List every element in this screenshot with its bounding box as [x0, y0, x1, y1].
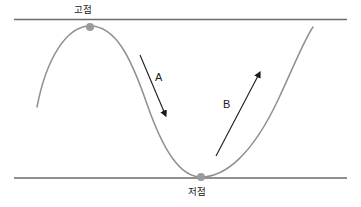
high-point-label: 고점	[74, 5, 92, 15]
diagram-canvas	[0, 0, 361, 207]
price-cycle-diagram: 고점 저점 A B	[0, 0, 361, 207]
arrow-down-right-icon	[140, 55, 165, 114]
low-point-label: 저점	[188, 187, 206, 197]
low-point-marker-icon	[197, 173, 205, 181]
arrow-a-label: A	[155, 72, 162, 83]
price-wave-curve	[37, 26, 313, 177]
arrow-b-label: B	[223, 99, 230, 110]
high-point-marker-icon	[86, 23, 94, 31]
